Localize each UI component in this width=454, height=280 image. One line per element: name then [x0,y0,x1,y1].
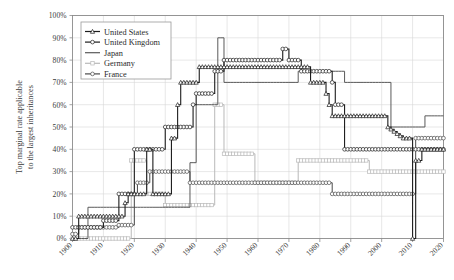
legend-label: France [104,70,127,79]
series-marker [188,125,192,129]
series-marker [278,58,282,62]
series-marker [210,92,214,96]
inheritance-tax-rate-chart: 0%10%20%30%40%50%60%70%80%90%100% 190019… [0,0,454,280]
y-axis-title-line: Top marginal rate applicable [15,80,24,174]
series-marker [365,159,368,162]
series-marker [129,223,133,227]
series-marker [340,103,344,107]
series-marker [114,219,118,223]
series-marker [91,62,94,65]
y-tick-label: 70% [53,78,68,87]
series-marker [126,237,129,240]
legend-label: Japan [104,49,124,58]
y-tick-label: 80% [53,56,68,65]
y-tick-label: 50% [53,123,68,132]
series-marker [327,69,331,73]
series-marker [91,72,95,76]
legend-label: United Kingdom [104,38,161,47]
series-marker [330,81,334,85]
series-marker [74,232,78,236]
series-marker [442,170,445,173]
series-marker [98,226,102,230]
chart-canvas: 0%10%20%30%40%50%60%70%80%90%100% 190019… [0,0,454,280]
y-tick-label: 60% [53,101,68,110]
series-marker [219,69,223,73]
y-tick-label: 30% [53,167,68,176]
series-marker [91,40,95,44]
series-marker [219,103,222,106]
series-marker [327,181,331,185]
series-marker [142,159,145,162]
series-marker [250,152,253,155]
y-tick-label: 10% [53,212,68,221]
series-marker [284,47,288,51]
y-tick-label: 40% [53,145,68,154]
y-axis-title-line: to the largest inheritances [26,85,35,169]
series-marker [442,136,446,140]
legend-label: Germany [104,59,136,68]
chart-legend: United StatesUnited KingdomJapanGermanyF… [81,22,171,79]
series-marker [160,147,164,151]
y-tick-label: 100% [49,11,67,20]
y-tick-label: 90% [53,34,68,43]
y-tick-label: 20% [53,190,68,199]
series-marker [191,103,195,107]
legend-label: United States [104,28,148,37]
series-marker [185,170,189,174]
series-marker [210,203,213,206]
series-marker [296,58,300,62]
